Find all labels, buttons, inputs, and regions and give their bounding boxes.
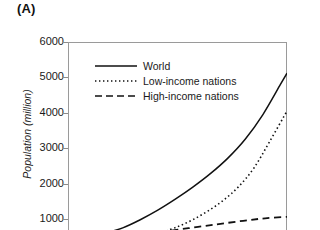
legend-label-high-income-nations: High-income nations (143, 90, 239, 102)
legend-item-high-income-nations: High-income nations (94, 88, 264, 103)
y-axis-tick-labels: 600050004000300020001000 (22, 0, 64, 230)
dotted-line-sample (94, 75, 138, 87)
y-tick-label: 1000 (24, 213, 64, 224)
legend-item-world: World (94, 58, 264, 73)
legend-label-low-income-nations: Low-income nations (143, 75, 236, 87)
y-tick-label: 4000 (24, 107, 64, 118)
y-tick-label: 5000 (24, 71, 64, 82)
legend-label-world: World (143, 60, 170, 72)
series-line-high-income-nations (160, 217, 287, 230)
y-tick-label: 6000 (24, 36, 64, 47)
series-line-low-income-nations (162, 111, 287, 230)
y-tick-label: 3000 (24, 142, 64, 153)
dashed-line-sample (94, 90, 138, 102)
solid-line-sample (94, 60, 138, 72)
y-tick-label: 2000 (24, 178, 64, 189)
legend-item-low-income-nations: Low-income nations (94, 73, 264, 88)
chart-legend: World Low-income nations High-income nat… (94, 58, 264, 103)
